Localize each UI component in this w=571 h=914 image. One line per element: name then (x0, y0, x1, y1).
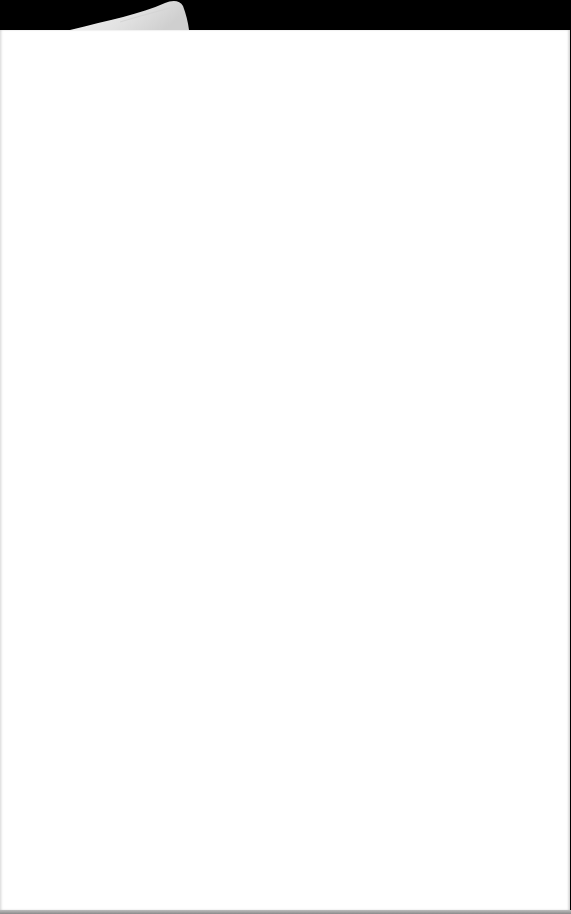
paper-bottom-edge (0, 910, 571, 914)
paper-curl (0, 0, 571, 32)
blank-paper-sheet (0, 30, 570, 912)
